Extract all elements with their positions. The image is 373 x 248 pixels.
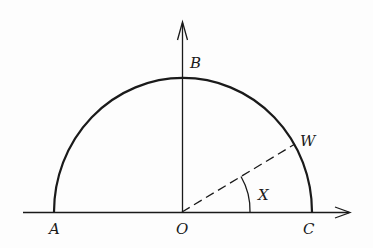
label-x: X: [257, 186, 270, 204]
label-o: O: [176, 220, 188, 238]
label-c: C: [303, 220, 315, 238]
label-a: A: [47, 220, 60, 238]
dashed-radius-ow: [182, 144, 295, 212]
semicircle-diagram: B W X A O C: [0, 0, 373, 248]
angle-arc-x: [241, 177, 250, 213]
label-b: B: [189, 54, 201, 72]
diagram-canvas: B W X A O C: [0, 0, 373, 248]
label-w: W: [300, 132, 317, 150]
